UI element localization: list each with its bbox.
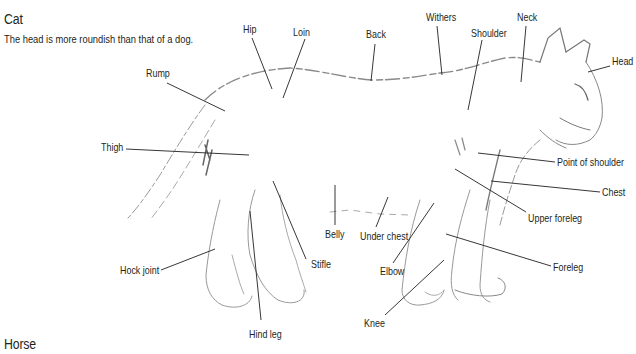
label-point-of-shoulder: Point of shoulder [557,157,624,168]
leader-rump [167,83,225,111]
leader-hip [252,38,272,89]
leader-hind-leg [250,211,261,320]
leader-neck [521,26,526,82]
label-chest: Chest [602,187,625,198]
label-belly: Belly [325,229,344,240]
label-withers: Withers [426,12,456,23]
label-stifle: Stifle [311,259,331,270]
label-head: Head [612,56,633,67]
label-thigh: Thigh [101,142,123,153]
label-hock-joint: Hock joint [120,265,159,276]
leader-under-chest [376,197,388,227]
label-back: Back [366,29,386,40]
label-elbow: Elbow [380,266,404,277]
leader-chest [491,181,600,192]
cat-sketch [128,28,602,307]
label-rump: Rump [146,68,170,79]
leader-stifle [273,181,306,259]
leader-shoulder [468,40,482,110]
label-foreleg: Foreleg [553,262,583,273]
cat-illustration [0,0,636,354]
leader-back [371,44,375,81]
label-knee: Knee [364,318,385,329]
label-hip: Hip [243,24,256,35]
leader-thigh [126,149,249,155]
label-under-chest: Under chest [360,231,408,242]
label-neck: Neck [517,12,537,23]
leader-withers [437,26,442,75]
leader-point-of-shoulder [478,153,555,162]
label-hind-leg: Hind leg [249,329,282,340]
label-loin: Loin [293,27,310,38]
label-shoulder: Shoulder [471,28,507,39]
leader-head [588,66,610,72]
leader-foreleg [446,234,551,266]
label-upper-foreleg: Upper foreleg [528,213,582,224]
leader-lines [126,26,610,320]
